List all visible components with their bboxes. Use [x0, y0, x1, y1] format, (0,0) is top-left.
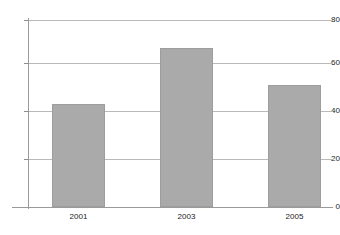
- x-axis-tick-label-2001: 2001: [52, 212, 105, 221]
- bar-2001: [52, 104, 105, 207]
- bar-chart: 80 60 40 20 0 2001 2003 2005: [0, 0, 340, 235]
- x-axis-tick-label-2005: 2005: [268, 212, 321, 221]
- bar-2003: [160, 48, 213, 207]
- x-axis-tick-label-2003: 2003: [160, 212, 213, 221]
- bar-2005: [268, 85, 321, 207]
- plot-area: [28, 20, 333, 207]
- x-axis-line: [12, 207, 333, 208]
